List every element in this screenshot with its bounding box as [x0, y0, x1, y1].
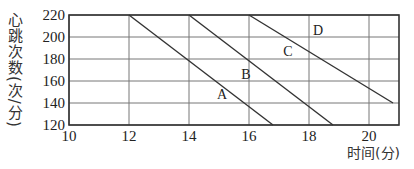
series-line-b	[189, 15, 333, 125]
x-axis-label: 时间(分)	[347, 142, 400, 162]
plot-frame	[69, 15, 399, 125]
series-line-a	[129, 15, 273, 125]
y-tick-label: 160	[43, 73, 66, 89]
x-tick-label: 12	[122, 128, 137, 144]
x-tick-label: 18	[302, 128, 317, 144]
y-tick-label: 180	[43, 51, 66, 67]
x-tick-label: 14	[182, 128, 198, 144]
region-label-d: D	[313, 23, 323, 38]
y-tick-label: 200	[43, 29, 66, 45]
y-tick-label: 220	[43, 7, 66, 23]
region-label-c: C	[283, 44, 292, 59]
x-tick-label: 16	[242, 128, 258, 144]
region-label-b: B	[241, 67, 250, 82]
x-tick-label: 10	[62, 128, 77, 144]
y-tick-label: 140	[43, 95, 66, 111]
region-label-a: A	[217, 87, 228, 102]
